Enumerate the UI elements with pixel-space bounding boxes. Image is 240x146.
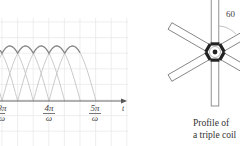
- caption-line-2: a triple coil: [193, 129, 236, 141]
- tick-5pi-den: ω: [87, 114, 103, 123]
- t-axis-label: t: [122, 105, 124, 113]
- tick-3pi-num: 3π: [0, 104, 10, 113]
- spoke-lower-left: [168, 53, 210, 82]
- envelope-curve: [0, 46, 80, 53]
- spoke-upper-left: [168, 23, 210, 52]
- spoke-top: [211, 0, 219, 44]
- phase-arches: [0, 46, 96, 101]
- tick-4pi-num: 4π: [41, 104, 57, 113]
- angle-label: 60: [226, 10, 235, 19]
- tick-5pi-num: 5π: [87, 104, 103, 113]
- tick-3pi-den: ω: [0, 114, 10, 123]
- plot-grid: [0, 18, 128, 146]
- figure: 3π ω 4π ω 5π ω t 60 Profile of a triple …: [0, 0, 240, 146]
- spoke-bottom: [211, 60, 219, 106]
- t-axis-arrow-icon: [121, 99, 127, 104]
- caption-line-1: Profile of: [193, 117, 229, 129]
- angle-arc: [219, 26, 236, 34]
- tick-4pi-den: ω: [41, 114, 57, 123]
- coil-core: [213, 50, 218, 55]
